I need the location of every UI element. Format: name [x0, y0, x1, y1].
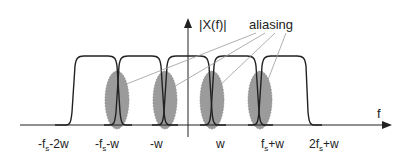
- aliasing-spectrum-diagram: |X(f)| aliasing f -fs-2w -fs-w -w w fs+w…: [0, 0, 404, 156]
- tick-label: -fs-2w: [38, 137, 69, 153]
- aliasing-label: aliasing: [249, 17, 293, 32]
- tick-label: fs+w: [261, 137, 284, 153]
- frequency-axis-label: f: [377, 106, 381, 121]
- frequency-axis-arrow-icon: [382, 121, 392, 129]
- magnitude-label: |X(f)|: [199, 17, 227, 32]
- tick-label: -fs-w: [95, 137, 119, 153]
- tick-label: -w: [150, 137, 163, 151]
- tick-label: 2fs+w: [309, 137, 339, 153]
- tick-label: w: [215, 137, 225, 151]
- magnitude-axis-arrow-icon: [184, 18, 192, 28]
- tick-labels: -fs-2w -fs-w -w w fs+w 2fs+w: [38, 137, 339, 153]
